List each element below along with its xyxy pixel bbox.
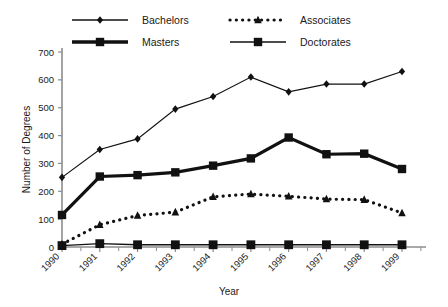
data-point [172,105,178,113]
data-point [322,240,331,249]
data-point [134,135,140,143]
data-point [95,239,104,248]
data-point [323,80,329,88]
data-point [360,240,369,249]
legend-label: Bachelors [142,14,189,26]
y-tick-label: 700 [38,47,54,58]
series-bachelors [59,68,405,181]
data-point [286,88,292,96]
x-tick-label: 1990 [39,251,62,274]
degrees-line-chart: BachelorsAssociatesMastersDoctorates 010… [0,0,448,307]
legend-marker-square-icon [254,38,262,46]
data-point [247,154,255,162]
x-tick-label: 1999 [379,251,402,274]
data-point [398,165,406,173]
data-point [171,168,179,176]
data-point [172,208,180,216]
chart-canvas: BachelorsAssociatesMastersDoctorates 010… [0,0,448,307]
data-point [133,171,141,179]
data-point [399,68,405,76]
x-tick-label: 1993 [152,251,175,274]
series-line [62,244,402,246]
data-point [209,161,217,169]
series-associates [58,190,406,248]
data-point [96,172,104,180]
y-tick-label: 400 [38,130,54,141]
x-tick-label: 1992 [114,251,137,274]
data-point [97,146,103,154]
data-point [322,150,330,158]
data-point [248,73,254,81]
data-point [134,211,142,219]
y-tick-label: 300 [38,158,54,169]
data-point [284,240,293,249]
data-point [284,133,292,141]
data-point [58,211,66,219]
data-point [398,209,406,217]
y-axis-title: Number of Degrees [21,106,32,193]
data-point [361,80,367,88]
series-line [62,138,402,215]
x-axis-title: Year [219,286,240,297]
x-tick-label: 1997 [303,251,326,274]
x-tick-label: 1991 [76,251,99,274]
legend-label: Doctorates [300,36,351,48]
legend-label: Masters [142,36,179,48]
x-tick-label: 1996 [265,251,288,274]
data-point [209,240,218,249]
legend-item-masters: Masters [72,36,179,48]
x-tick-label: 1995 [228,251,251,274]
data-point [246,240,255,249]
x-tick-label: 1994 [190,251,213,274]
chart-series [58,68,407,250]
legend-item-associates: Associates [230,14,351,26]
x-tick-label: 1998 [341,251,364,274]
chart-legend: BachelorsAssociatesMastersDoctorates [72,14,351,48]
data-point [360,149,368,157]
y-tick-label: 100 [38,214,54,225]
legend-item-doctorates: Doctorates [230,36,351,48]
data-point [210,93,216,101]
y-tick-label: 500 [38,102,54,113]
legend-label: Associates [300,14,351,26]
legend-marker-square-icon [96,38,104,46]
y-tick-label: 600 [38,74,54,85]
data-point [59,174,65,182]
data-point [171,240,180,249]
legend-marker-diamond-icon [97,16,103,24]
series-line [62,194,402,244]
data-point [58,241,67,250]
data-point [398,240,407,249]
data-point [133,240,142,249]
legend-item-bachelors: Bachelors [72,14,189,26]
y-tick-label: 200 [38,186,54,197]
